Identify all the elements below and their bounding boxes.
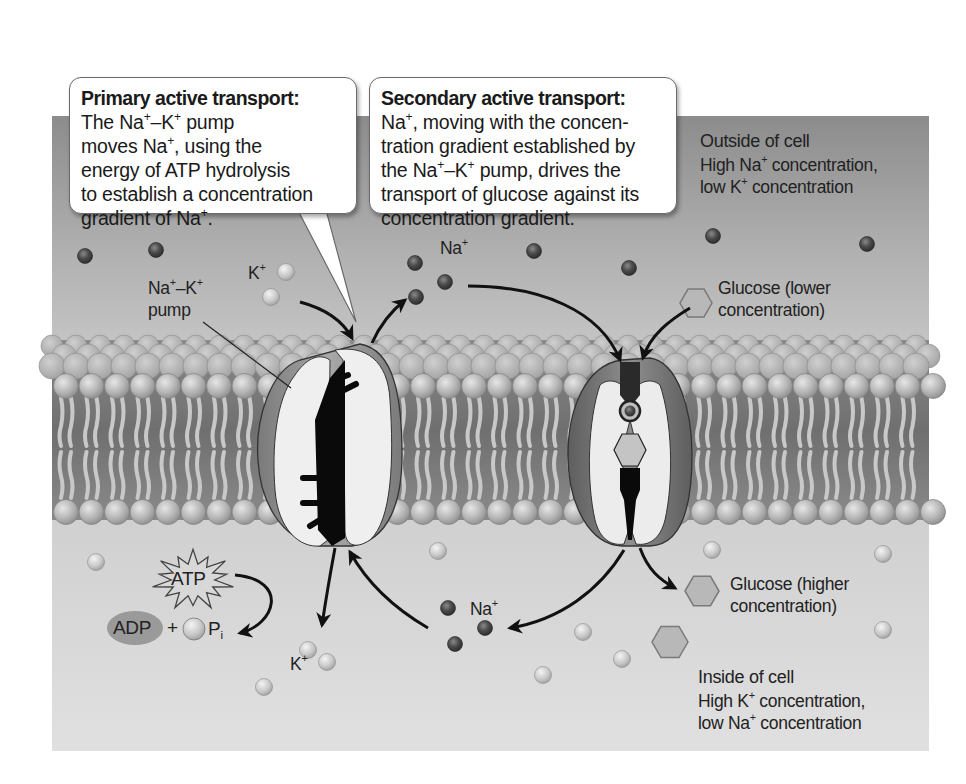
atp-group xyxy=(0,0,966,784)
pi-label: Pi xyxy=(208,618,223,640)
diagram-stage: Primary active transport: The Na+–K+ pum… xyxy=(0,0,966,784)
adp-label: ADP xyxy=(113,617,151,639)
plus-sign: + xyxy=(167,617,178,639)
phosphate-sphere xyxy=(183,618,205,640)
atp-label: ATP xyxy=(171,568,206,590)
